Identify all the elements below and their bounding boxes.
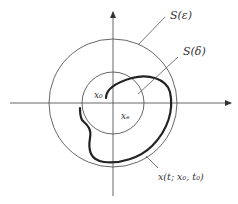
stability-diagram: S(ε) S(δ) x₀ xₑ x(t; x₀, t₀): [0, 0, 238, 204]
label-s-epsilon: S(ε): [170, 9, 192, 22]
label-x0: x₀: [94, 90, 103, 100]
leader-trajectory: [146, 156, 158, 168]
label-s-delta: S(δ): [183, 45, 206, 58]
label-xe: xₑ: [121, 111, 130, 121]
leader-s-epsilon: [138, 17, 165, 45]
label-trajectory: x(t; x₀, t₀): [158, 171, 204, 182]
